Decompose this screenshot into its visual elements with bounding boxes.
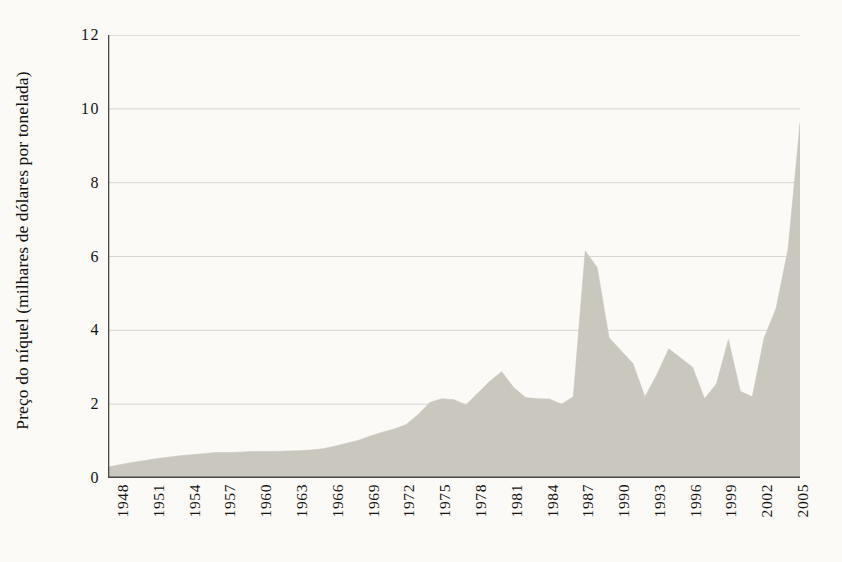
gridlines-group <box>108 35 800 404</box>
x-tick-label-1990: 1990 <box>615 484 633 517</box>
x-tick-label-1993: 1993 <box>651 484 669 517</box>
y-axis-tick-labels: 024681012 <box>44 0 100 562</box>
x-axis-tick-labels: 1948195119541957196019631966196919721975… <box>108 484 800 562</box>
y-tick-label-0: 0 <box>91 469 101 487</box>
x-tick-label-1987: 1987 <box>579 484 597 517</box>
x-tick-label-1957: 1957 <box>221 484 239 517</box>
x-tick-label-1954: 1954 <box>186 484 204 517</box>
plot-area <box>108 35 800 478</box>
x-tick-label-1960: 1960 <box>257 484 275 517</box>
nickel-price-figure: Preço do níquel (milhares de dólares por… <box>0 0 842 562</box>
x-tick-label-1972: 1972 <box>400 484 418 517</box>
y-tick-label-12: 12 <box>81 26 100 44</box>
y-tick-label-4: 4 <box>91 321 101 339</box>
y-tick-label-6: 6 <box>91 248 101 266</box>
x-tick-label-1975: 1975 <box>436 484 454 517</box>
y-tick-label-10: 10 <box>81 100 100 118</box>
area-chart-svg <box>108 35 800 478</box>
x-tick-label-2005: 2005 <box>794 484 812 517</box>
x-tick-label-2002: 2002 <box>758 484 776 517</box>
x-tick-label-1969: 1969 <box>365 484 383 517</box>
y-tick-label-8: 8 <box>91 174 101 192</box>
y-tick-label-2: 2 <box>91 395 101 413</box>
x-tick-label-1984: 1984 <box>544 484 562 517</box>
x-tick-label-1951: 1951 <box>150 484 168 517</box>
x-tick-label-1978: 1978 <box>472 484 490 517</box>
x-tick-label-1999: 1999 <box>722 484 740 517</box>
y-axis-title: Preço do níquel (milhares de dólares por… <box>12 71 33 429</box>
x-tick-label-1948: 1948 <box>114 484 132 517</box>
x-tick-label-1966: 1966 <box>329 484 347 517</box>
x-tick-label-1981: 1981 <box>508 484 526 517</box>
x-tick-label-1996: 1996 <box>687 484 705 517</box>
x-tick-label-1963: 1963 <box>293 484 311 517</box>
y-axis-title-container: Preço do níquel (milhares de dólares por… <box>0 0 44 500</box>
nickel-price-area <box>108 124 800 478</box>
